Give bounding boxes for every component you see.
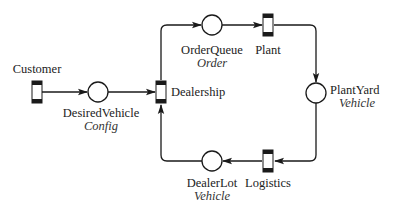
transition-label-customer: Customer	[13, 63, 62, 76]
transition-label-logistics: Logistics	[245, 177, 291, 190]
transition-label-dealership: Dealership	[171, 86, 225, 99]
place-orderqueue	[202, 15, 222, 35]
place-type-desiredvehicle: Config	[84, 120, 118, 133]
transition-label-plant: Plant	[255, 44, 281, 57]
place-type-dealerlot: Vehicle	[194, 190, 230, 203]
transition-customer	[32, 81, 42, 103]
transition-dealership	[156, 81, 166, 103]
place-desiredvehicle	[88, 82, 108, 102]
transition-plant	[263, 14, 273, 36]
arc-dealerlot-dealership	[161, 105, 202, 161]
arc-plantyard-logistics	[275, 103, 316, 161]
place-plantyard	[306, 83, 326, 103]
place-type-orderqueue: Order	[197, 57, 227, 70]
transition-logistics	[263, 150, 273, 172]
place-type-plantyard: Vehicle	[339, 97, 375, 110]
place-dealerlot	[202, 151, 222, 171]
